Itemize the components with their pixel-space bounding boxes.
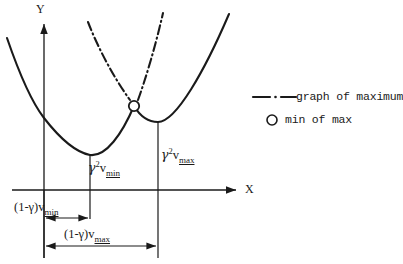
- y-axis-label: Y: [36, 2, 45, 17]
- vmax-subscript: max: [95, 234, 111, 244]
- solid-curve-left: [7, 38, 134, 155]
- dashdot-curve-left: [88, 22, 130, 100]
- min-of-max-marker: [129, 101, 139, 111]
- legend-line-dot: [274, 96, 277, 99]
- one-minus-gamma-vmax-label: (1-γ)vmax: [64, 227, 110, 242]
- vmax-prefix: (1-γ)v: [64, 227, 95, 241]
- gamma2-vmax-label: γ2vmax: [161, 147, 194, 163]
- dashdot-curve-right: [138, 13, 163, 100]
- legend-item-min-of-max: min of max: [285, 113, 352, 126]
- x-axis-label: X: [245, 182, 254, 197]
- vmin-prefix: (1-γ)v: [14, 200, 45, 214]
- one-minus-gamma-vmin-label: (1-γ)vmin: [14, 200, 59, 215]
- figure-container: Y X γ2vmin γ2vmax (1-γ)vmin (1-γ)vmax gr…: [0, 0, 403, 264]
- gamma2-vmin-label: γ2vmin: [88, 160, 120, 176]
- v-subscript: max: [179, 155, 195, 165]
- legend-item-graph-of-maximum: graph of maximum: [296, 90, 403, 103]
- legend-open-circle-icon: [267, 115, 277, 125]
- plot-canvas: [0, 0, 403, 264]
- vmin-subscript: min: [45, 207, 59, 217]
- v-subscript: min: [106, 168, 120, 178]
